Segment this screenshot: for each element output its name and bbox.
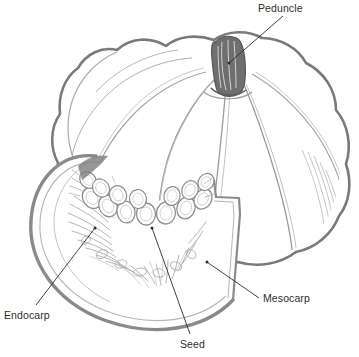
peduncle [204,36,252,98]
rib-5 [90,72,206,190]
label-peduncle: Peduncle [258,2,303,14]
label-mesocarp: Mesocarp [263,292,310,304]
leader-dot-endocarp [94,227,97,230]
cut-wedge-group [31,155,240,329]
rib-4 [252,74,344,202]
pumpkin-anatomy-figure: Peduncle Endocarp Mesocarp Seed [0,0,359,357]
leader-dot-seed [151,227,154,230]
leader-dot-peduncle [228,62,231,65]
leader-dot-mesocarp [206,261,209,264]
label-seed: Seed [180,338,205,350]
label-endocarp: Endocarp [4,309,50,321]
rib-3 [243,82,292,250]
